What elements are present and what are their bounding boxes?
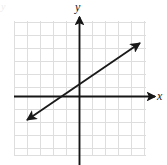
y-axis-label: y <box>74 0 81 14</box>
coordinate-plane-figure: y <box>0 0 167 165</box>
coordinate-plane-svg: x y <box>0 0 167 165</box>
x-axis-label: x <box>156 89 163 103</box>
